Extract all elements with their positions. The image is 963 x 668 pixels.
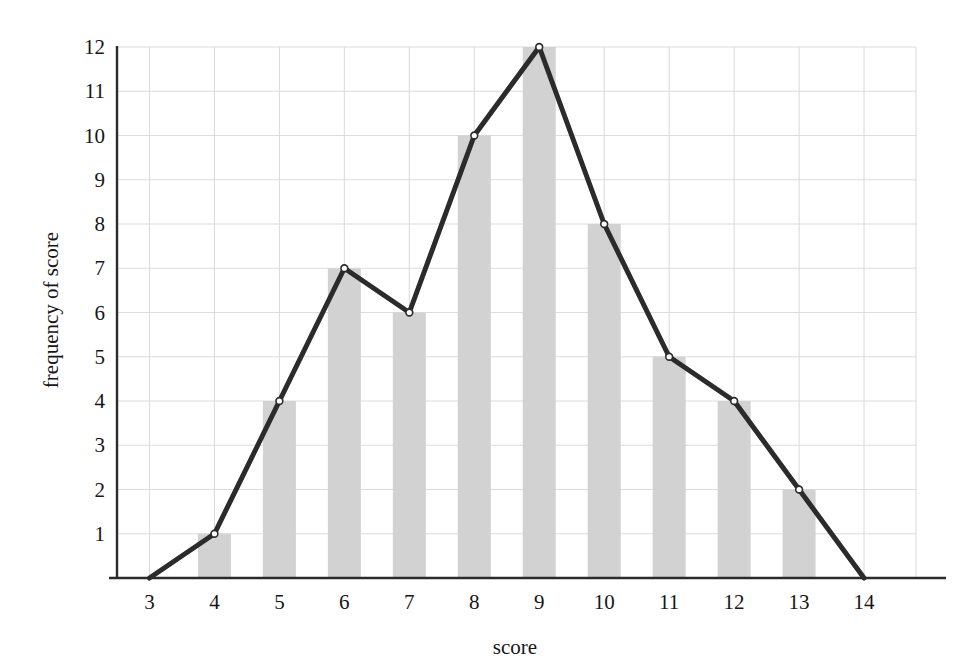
data-point-marker: [406, 309, 413, 316]
data-point-marker: [601, 221, 608, 228]
x-axis-title: score: [493, 635, 537, 659]
y-tick-label: 12: [84, 35, 105, 59]
x-tick-label: 12: [724, 590, 745, 614]
x-tick-label: 7: [404, 590, 415, 614]
bar: [393, 313, 426, 579]
x-tick-label: 10: [594, 590, 615, 614]
x-tick-label: 11: [659, 590, 679, 614]
x-tick-label: 8: [469, 590, 480, 614]
y-axis-title: frequency of score: [39, 232, 63, 388]
data-point-marker: [341, 265, 348, 272]
y-tick-label: 5: [95, 345, 106, 369]
data-point-marker: [211, 530, 218, 537]
bar: [523, 47, 556, 578]
chart-canvas: 123456789101112 34567891011121314 score …: [0, 0, 963, 668]
x-tick-label: 4: [209, 590, 220, 614]
bar: [328, 268, 361, 578]
data-point-marker: [731, 398, 738, 405]
bar: [653, 357, 686, 578]
data-point-marker: [471, 132, 478, 139]
bar: [718, 401, 751, 578]
x-tick-label: 13: [789, 590, 810, 614]
y-tick-label: 7: [95, 256, 106, 280]
y-tick-label: 1: [95, 522, 106, 546]
x-tick-label: 3: [144, 590, 155, 614]
y-tick-label: 4: [95, 389, 106, 413]
x-tick-label: 14: [854, 590, 876, 614]
y-tick-label: 10: [84, 124, 105, 148]
y-tick-label: 11: [85, 79, 105, 103]
y-tick-label: 6: [95, 301, 106, 325]
x-tick-label: 9: [534, 590, 545, 614]
y-tick-label: 8: [95, 212, 106, 236]
data-point-marker: [796, 486, 803, 493]
x-tick-label: 6: [339, 590, 350, 614]
data-point-marker: [276, 398, 283, 405]
y-tick-label: 2: [95, 478, 106, 502]
data-point-marker: [536, 44, 543, 51]
data-point-marker: [666, 353, 673, 360]
y-tick-label: 9: [95, 168, 106, 192]
y-tick-label: 3: [95, 433, 106, 457]
bar: [458, 136, 491, 579]
bar: [588, 224, 621, 578]
x-tick-label: 5: [274, 590, 285, 614]
frequency-polygon-chart: 123456789101112 34567891011121314 score …: [0, 0, 963, 668]
